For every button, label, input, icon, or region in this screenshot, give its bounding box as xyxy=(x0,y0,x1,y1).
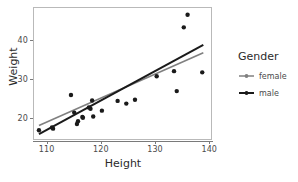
y-tick-mark xyxy=(30,118,33,119)
x-tick-label: 130 xyxy=(147,145,163,154)
data-point xyxy=(51,126,55,130)
legend-key-icon xyxy=(238,70,255,82)
scatter-plot-figure: 110120130140 Height 203040 Weight Gender… xyxy=(0,0,298,182)
x-tick-label: 140 xyxy=(201,145,217,154)
y-tick-mark xyxy=(30,40,33,41)
x-axis-line xyxy=(33,141,213,142)
data-point xyxy=(100,108,104,112)
y-tick-mark xyxy=(30,79,33,80)
data-point xyxy=(200,70,204,74)
legend-item-female[interactable]: female xyxy=(238,69,298,83)
legend-entries: femalemale xyxy=(238,69,298,100)
data-point xyxy=(172,69,176,73)
data-point xyxy=(154,74,158,78)
data-point xyxy=(76,119,80,123)
data-point xyxy=(91,114,95,118)
legend-title: Gender xyxy=(238,50,298,63)
x-tick-mark xyxy=(47,141,48,144)
data-point xyxy=(88,107,92,111)
data-point xyxy=(115,99,119,103)
data-point xyxy=(81,116,85,120)
data-point xyxy=(185,13,189,17)
data-point xyxy=(37,128,41,132)
legend-label: male xyxy=(259,89,279,98)
x-tick-mark xyxy=(101,141,102,144)
data-point xyxy=(175,89,179,93)
legend-item-male[interactable]: male xyxy=(238,86,298,100)
data-point xyxy=(90,98,94,102)
x-tick-label: 120 xyxy=(93,145,109,154)
y-axis-title: Weight xyxy=(7,37,20,97)
data-point xyxy=(133,98,137,102)
plot-canvas xyxy=(33,7,212,140)
data-point xyxy=(182,25,186,29)
plot-panel xyxy=(33,7,212,140)
data-point xyxy=(124,101,128,105)
x-tick-mark xyxy=(155,141,156,144)
legend: Gender femalemale xyxy=(238,50,298,103)
x-tick-label: 110 xyxy=(39,145,55,154)
data-point xyxy=(72,110,76,114)
legend-key-icon xyxy=(238,87,255,99)
legend-label: female xyxy=(259,72,287,81)
x-axis-title: Height xyxy=(33,157,213,170)
data-point xyxy=(69,93,73,97)
y-tick-label: 20 xyxy=(18,114,28,123)
x-tick-mark xyxy=(209,141,210,144)
fit-line-male xyxy=(39,45,203,134)
